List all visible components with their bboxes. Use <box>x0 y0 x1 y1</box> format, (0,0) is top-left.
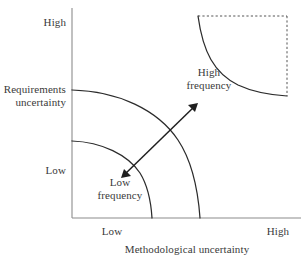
low-frequency-line1: Low <box>110 176 130 188</box>
y-axis-title-line1: Requirements <box>4 83 66 95</box>
low-frequency-line2: frequency <box>98 189 143 201</box>
y-axis-tick-low: Low <box>10 164 66 177</box>
y-axis-title-line2: uncertainty <box>15 96 66 108</box>
frequency-direction-arrow <box>121 103 198 178</box>
x-axis-tick-high: High <box>258 225 298 238</box>
y-axis-tick-high: High <box>10 16 66 29</box>
high-frequency-annotation: High frequency <box>178 66 240 91</box>
high-frequency-line2: frequency <box>187 79 232 91</box>
low-frequency-annotation: Low frequency <box>88 176 152 201</box>
arrow-shaft <box>123 105 196 176</box>
x-axis-title: Methodological uncertainty <box>73 243 301 256</box>
figure-canvas: High Requirements uncertainty Low Low Hi… <box>0 0 306 264</box>
high-frequency-line1: High <box>198 66 220 78</box>
x-axis-tick-low: Low <box>92 225 132 238</box>
y-axis-title: Requirements uncertainty <box>0 83 66 108</box>
